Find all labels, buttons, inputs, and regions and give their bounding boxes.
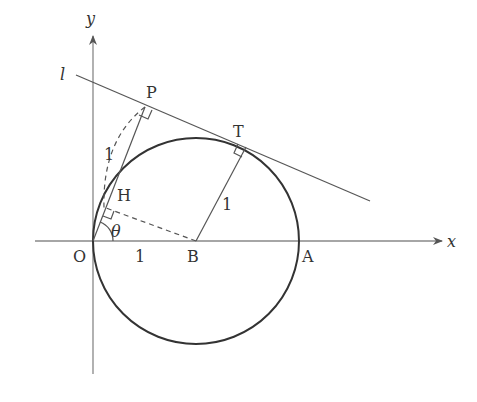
length-BT-label: 1 <box>222 195 232 214</box>
segment-OP <box>93 107 145 241</box>
point-B-label: B <box>187 247 199 266</box>
x-axis-label: x <box>447 232 456 251</box>
point-H-label: H <box>117 186 131 205</box>
point-T-label: T <box>233 122 244 141</box>
point-P-label: P <box>146 83 157 102</box>
origin-label: O <box>73 247 86 266</box>
segment-BT <box>196 147 246 241</box>
geometry-diagram: y x l P T H O B A 1 1 1 θ <box>0 0 477 402</box>
tangent-line-l <box>76 75 370 201</box>
length-OB-label: 1 <box>135 247 145 266</box>
angle-theta-label: θ <box>111 222 121 241</box>
y-axis-label: y <box>85 9 96 28</box>
point-A-label: A <box>301 247 314 266</box>
length-HP-label: 1 <box>104 145 114 164</box>
line-l-label: l <box>60 65 65 84</box>
